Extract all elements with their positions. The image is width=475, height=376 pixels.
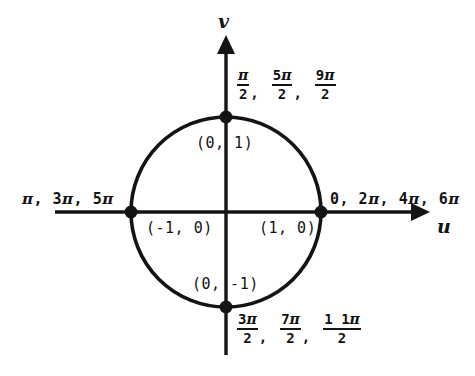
fraction-item: π 2 , [237,68,259,101]
fraction-numerator: 3π [237,312,258,330]
fraction-item: 3π 2 , [237,312,267,345]
fraction-numerator: 5π [272,68,293,86]
v-axis-label: v [218,12,229,31]
fraction-denominator: 2 [338,330,346,346]
point-label-top: (0, 1) [196,136,253,151]
fraction-item: 7π 2 , [280,312,310,345]
fraction-denominator: 2 [239,86,247,102]
fraction-denominator: 2 [321,86,329,102]
fraction: 9π 2 [315,68,336,101]
angle-label-top: π 2 , 5π 2 , 9π 2 [237,68,337,101]
v-axis-arrowhead [217,35,235,54]
fraction-numerator: 7π [280,312,301,330]
point-dot-top [220,111,233,124]
angle-label-left: π, 3π, 5π [22,192,114,207]
point-dot-bottom [220,301,233,314]
fraction-numerator: π [237,68,249,86]
fraction: π 2 [237,68,249,101]
fraction-denominator: 2 [278,86,286,102]
angle-label-bottom: 3π 2 , 7π 2 , 1 1π 2 [237,312,362,345]
fraction-item: 9π 2 [315,68,337,101]
fraction-separator: , [292,85,301,101]
fraction-item: 1 1π 2 [323,312,362,345]
fraction: 7π 2 [280,312,301,345]
fraction: 1 1π 2 [323,312,361,345]
point-label-right: (1, 0) [259,221,316,236]
fraction: 5π 2 [272,68,293,101]
fraction-separator: , [258,329,267,345]
fraction-denominator: 2 [286,330,294,346]
fraction-numerator: 9π [315,68,336,86]
point-label-left: (-1, 0) [146,221,213,236]
fraction-numerator: 1 1π [323,312,361,330]
fraction-separator: , [249,85,258,101]
fraction: 3π 2 [237,312,258,345]
fraction-item: 5π 2 , [272,68,302,101]
point-dot-right [315,206,328,219]
fraction-denominator: 2 [243,330,251,346]
point-label-bottom: (0, -1) [192,277,259,292]
fraction-separator: , [301,329,310,345]
angle-label-right: 0, 2π, 4π, 6π [330,192,460,207]
u-axis-label: u [437,217,451,236]
point-dot-left [125,206,138,219]
